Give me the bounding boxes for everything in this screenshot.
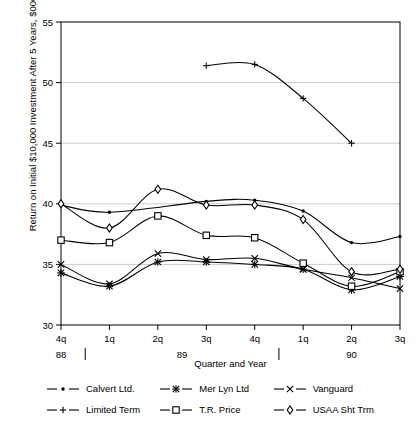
legend-item[interactable]: USAA Sht Trm [273,403,386,417]
legend-label: USAA Sht Trm [313,404,374,415]
x-tick-label: 2q [346,333,357,344]
data-point-diamond [58,200,64,208]
data-point-square [300,260,306,266]
data-point-square [155,213,161,219]
series-line [61,199,400,243]
legend-marker-x-icon [273,382,307,396]
y-tick-label: 35 [42,259,53,270]
series-line [206,62,351,143]
data-point-filled-dot [301,209,304,212]
chart-legend: Calvert Ltd.Mer Lyn LtdVanguardLimited T… [46,378,386,420]
legend-marker-diamond-icon [273,403,307,417]
data-point-filled-dot [398,235,401,238]
legend-marker-square-icon [159,403,193,417]
legend-marker-filled-dot-icon [61,387,64,390]
legend-label: Limited Term [86,404,140,415]
y-tick-label: 30 [42,320,53,331]
legend-label: Calvert Ltd. [86,383,135,394]
x-tick-label: 4q [56,333,67,344]
data-point-diamond [155,185,161,193]
legend-row: Calvert Ltd.Mer Lyn LtdVanguard [46,378,386,399]
legend-marker-asterisk-icon [159,382,193,396]
data-point-square [348,283,354,289]
x-tick-label: 2q [153,333,164,344]
series-limited-term [203,61,355,146]
legend-marker-plus-icon [46,403,80,417]
data-point-square [58,237,64,243]
data-point-diamond [203,201,209,209]
series-line [61,189,400,275]
data-point-diamond [252,201,258,209]
x-tick-label: 1q [298,333,309,344]
legend-row: Limited TermT.R. PriceUSAA Sht Trm [46,399,386,420]
legend-item[interactable]: Calvert Ltd. [46,382,159,396]
legend-label: T.R. Price [199,404,240,415]
data-point-filled-dot [108,211,111,214]
data-point-square [203,232,209,238]
x-tick-label: 1q [104,333,115,344]
legend-item[interactable]: Mer Lyn Ltd [159,382,272,396]
data-point-square [252,235,258,241]
series-usaa-sht-trm [58,185,403,275]
x-axis-title: Quarter and Year [61,358,400,369]
legend-item[interactable]: T.R. Price [159,403,272,417]
legend-marker-diamond-icon [287,406,293,414]
data-point-diamond [349,268,355,276]
y-tick-label: 45 [42,138,53,149]
x-tick-label: 3q [395,333,406,344]
legend-marker-filled-dot-icon [46,382,80,396]
legend-label: Vanguard [313,383,354,394]
x-tick-label: 4q [249,333,260,344]
data-point-diamond [107,224,113,232]
y-tick-label: 50 [42,77,53,88]
y-tick-label: 40 [42,198,53,209]
legend-label: Mer Lyn Ltd [199,383,249,394]
legend-item[interactable]: Limited Term [46,403,159,417]
legend-marker-square-icon [173,406,179,412]
data-point-square [106,239,112,245]
legend-item[interactable]: Vanguard [273,382,386,396]
x-tick-label: 3q [201,333,212,344]
y-tick-label: 55 [42,17,53,28]
data-point-diamond [300,216,306,224]
data-point-filled-dot [350,241,353,244]
